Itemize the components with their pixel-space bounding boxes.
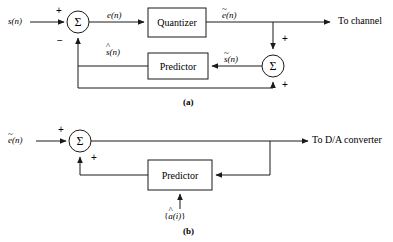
label-to-da-converter: To D/A converter: [312, 135, 382, 145]
wire-feedback-tap-b: [216, 141, 270, 175]
sign-input-plus-b: +: [58, 125, 64, 135]
sign-input-plus-a: +: [56, 6, 62, 16]
label-input-signal-a: s(n): [8, 17, 22, 26]
label-reconstructed-signal-a: ~s(n): [224, 55, 238, 64]
summer-symbol-a-right: Σ: [262, 56, 284, 76]
caption-panel-b: (b): [183, 227, 194, 236]
label-input-signal-b: ~e(n): [8, 136, 23, 145]
summer-symbol-b: Σ: [69, 131, 91, 151]
label-predicted-signal-a: ^s(n): [106, 48, 120, 57]
label-error-signal-a: e(n): [107, 11, 122, 20]
sign-right-top-plus-a: +: [282, 34, 288, 44]
label-predictor-coefficients: {^a(i)}: [164, 212, 186, 221]
block-label-predictor-b: Predictor: [148, 160, 212, 190]
figure-dpcm-block-diagram: s(n) + − Σ e(n) Quantizer ~e(n) To chann…: [0, 0, 393, 242]
caption-panel-a: (a): [183, 98, 194, 107]
sign-right-bottom-plus-a: +: [282, 80, 288, 90]
label-to-channel: To channel: [338, 16, 382, 26]
sign-feedback-minus-a: −: [57, 36, 63, 46]
summer-symbol-a-left: Σ: [67, 12, 89, 32]
sign-feedback-plus-b: +: [91, 153, 97, 163]
label-quantized-error-a: ~e(n): [222, 11, 237, 20]
block-label-quantizer: Quantizer: [148, 8, 206, 37]
block-label-predictor-a: Predictor: [148, 53, 208, 79]
